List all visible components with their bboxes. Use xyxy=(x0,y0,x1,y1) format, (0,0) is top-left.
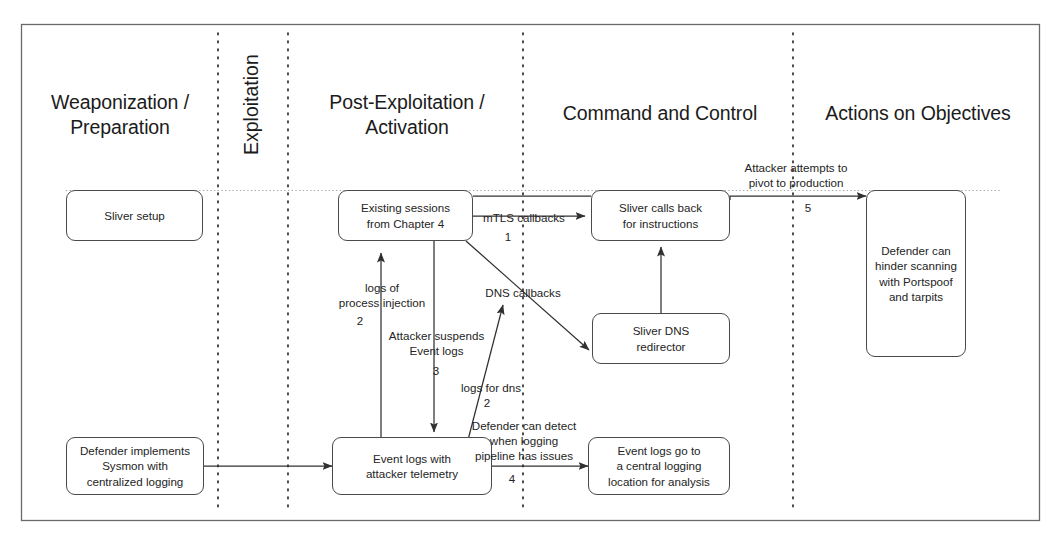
lane-header-command-and-control: Command and Control xyxy=(534,101,786,126)
node-central-logging[interactable]: Event logs go to a central logging locat… xyxy=(588,437,730,495)
edge-label-mtls: mTLS callbacks xyxy=(478,210,570,225)
diagram-canvas: Weaponization / Preparation Exploitation… xyxy=(0,0,1061,540)
edge-step-pivot: 5 xyxy=(798,201,818,214)
edge-step-process-injection: 2 xyxy=(350,314,370,327)
lane-header-post-exploitation: Post-Exploitation / Activation xyxy=(300,90,514,140)
node-sliver-dns-redirector[interactable]: Sliver DNS redirector xyxy=(592,313,730,364)
node-sliver-calls-back[interactable]: Sliver calls back for instructions xyxy=(591,190,730,241)
edge-step-logs-for-dns: 2 xyxy=(477,396,497,409)
edge-label-pivot: Attacker attempts to pivot to production xyxy=(723,160,869,190)
node-existing-sessions[interactable]: Existing sessions from Chapter 4 xyxy=(338,190,473,241)
edge-step-suspend-logs: 3 xyxy=(426,364,446,377)
edge-label-logs-for-dns: logs for dns xyxy=(448,380,534,395)
edge-step-logging-pipeline: 4 xyxy=(502,472,522,485)
node-sliver-setup[interactable]: Sliver setup xyxy=(66,190,203,241)
edge-label-logging-pipeline: Defender can detect when logging pipelin… xyxy=(460,418,588,463)
edge-step-mtls: 1 xyxy=(498,230,518,243)
edge-label-dns-callbacks: DNS callbacks xyxy=(476,285,570,300)
edge-label-process-injection: logs of process injection xyxy=(330,280,434,310)
lane-header-weaponization: Weaponization / Preparation xyxy=(34,90,206,140)
node-defender-portspoof[interactable]: Defender can hinder scanning with Portsp… xyxy=(866,190,966,357)
edge-label-suspend-logs: Attacker suspends Event logs xyxy=(380,328,493,358)
edge-pivot-line xyxy=(730,196,866,200)
lane-header-exploitation: Exploitation xyxy=(240,54,263,155)
lane-header-actions-on-objectives: Actions on Objectives xyxy=(802,101,1034,126)
node-defender-sysmon[interactable]: Defender implements Sysmon with centrali… xyxy=(66,437,204,495)
